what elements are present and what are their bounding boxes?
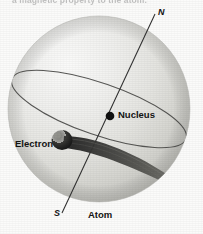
label-south-pole: S [54, 209, 60, 218]
atom-illustration [0, 0, 203, 234]
label-atom: Atom [88, 210, 112, 220]
electron-particle [52, 130, 73, 150]
label-electron: Electron [15, 139, 53, 149]
nucleus-dot [106, 112, 115, 121]
label-nucleus: Nucleus [118, 110, 155, 120]
atom-figure: a magnetic property to the atom. [0, 0, 203, 234]
label-north-pole: N [158, 8, 165, 17]
